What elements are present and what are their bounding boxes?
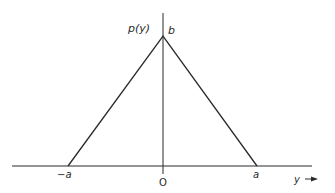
left-limit-label: −a xyxy=(57,169,72,180)
x-axis-label: y xyxy=(293,174,301,185)
triangular-pdf-diagram: p(y) b −a a O y xyxy=(0,0,335,193)
y-axis-label: p(y) xyxy=(127,22,150,35)
origin-label: O xyxy=(159,177,167,188)
peak-label: b xyxy=(168,24,175,37)
x-axis-arrow-icon xyxy=(311,177,318,182)
right-limit-label: a xyxy=(253,169,259,180)
